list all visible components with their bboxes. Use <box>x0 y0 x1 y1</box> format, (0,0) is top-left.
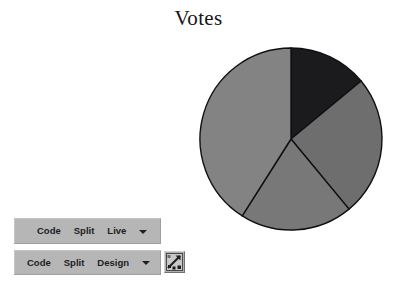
toolbar-live-item-split[interactable]: Split <box>74 226 95 236</box>
chevron-down-icon[interactable] <box>139 230 147 234</box>
page-title: Votes <box>0 6 397 31</box>
toolbar-design[interactable]: Code Split Design <box>14 250 161 275</box>
chevron-down-icon[interactable] <box>142 261 150 265</box>
pie-chart-svg <box>197 45 387 235</box>
toolbar-live-item-code[interactable]: Code <box>37 226 61 236</box>
pie-slice-group <box>200 48 382 230</box>
live-view-button[interactable] <box>164 251 185 273</box>
toolbar-live[interactable]: Code Split Live <box>14 218 161 244</box>
app-root: Votes Code Split Live Code Split Design <box>0 0 397 287</box>
toolbar-live-item-live[interactable]: Live <box>107 226 126 236</box>
toolbar-design-item-split[interactable]: Split <box>64 258 85 268</box>
live-view-icon <box>166 253 183 271</box>
toolbar-design-item-design[interactable]: Design <box>97 258 129 268</box>
pie-chart <box>197 45 387 235</box>
toolbar-design-item-code[interactable]: Code <box>27 258 51 268</box>
